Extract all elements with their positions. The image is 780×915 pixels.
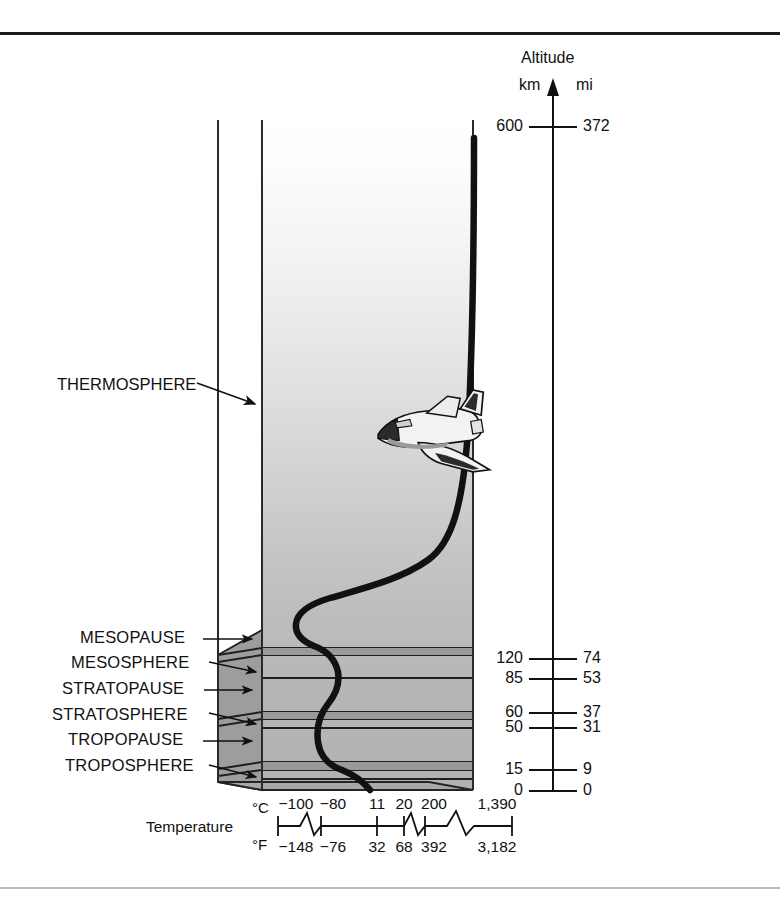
space-shuttle-icon (378, 390, 489, 472)
altitude-tick-km-85: 85 (0, 669, 523, 687)
layer-label-mesopause: MESOPAUSE (80, 628, 185, 647)
temperature-axis-line (278, 811, 512, 835)
atmosphere-diagram: MESOPAUSE MESOSPHERE STRATOPAUSE STRATOS… (0, 0, 780, 915)
temp-tick-c-4: 200 (408, 795, 460, 813)
unit-celsius: °C (252, 799, 269, 816)
unit-fahrenheit: °F (252, 836, 267, 853)
thermosphere-leader-line (197, 383, 255, 404)
altitude-axis-title: Altitude (521, 49, 574, 67)
altitude-tick-mi-9: 9 (583, 760, 592, 778)
altitude-tick-mi-31: 31 (583, 718, 601, 736)
altitude-axis-arrow (547, 78, 559, 96)
temp-tick-c-5: 1,390 (471, 795, 523, 813)
altitude-unit-mi: mi (576, 76, 593, 94)
altitude-tick-mi-372: 372 (583, 117, 610, 135)
altitude-tick-km-15: 15 (0, 760, 523, 778)
altitude-tick-km-600: 600 (0, 117, 523, 135)
temperature-axis-label: Temperature (146, 818, 233, 836)
altitude-tick-mi-0: 0 (583, 781, 592, 799)
layer-label-thermosphere: THERMOSPHERE (57, 375, 196, 394)
altitude-tick-mi-74: 74 (583, 649, 601, 667)
altitude-tick-km-120: 120 (0, 649, 523, 667)
altitude-unit-km: km (519, 76, 540, 94)
temp-tick-f-5: 3,182 (471, 838, 523, 856)
temp-tick-f-4: 392 (408, 838, 460, 856)
altitude-tick-km-50: 50 (0, 718, 523, 736)
altitude-tick-mi-53: 53 (583, 669, 601, 687)
